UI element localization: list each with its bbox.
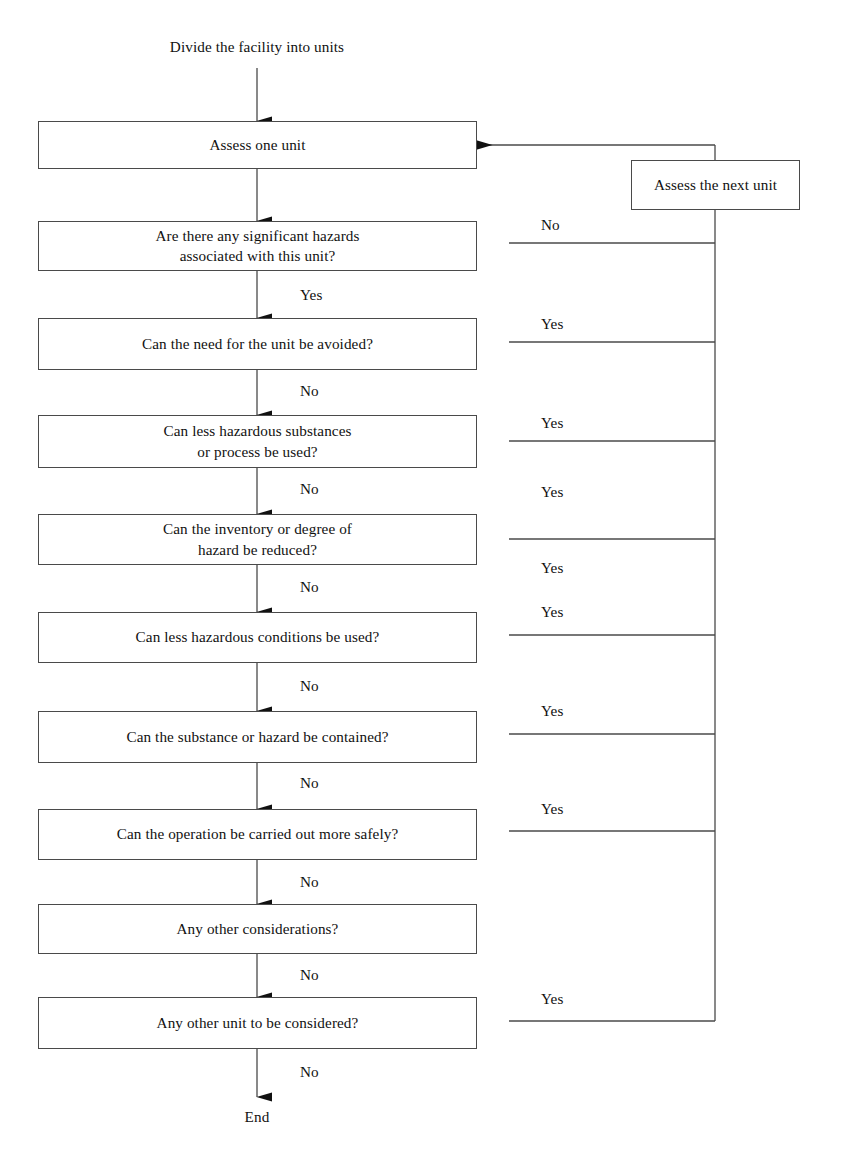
branch-label-other-unit: Yes <box>541 990 563 1008</box>
edge-label-yes-after-hazards: Yes <box>300 286 322 304</box>
branch-label-need-avoided: Yes <box>541 315 563 333</box>
edge-label-no-after-need-avoided: No <box>300 382 319 400</box>
branch-label-safely: Yes <box>541 800 563 818</box>
branch-label-substances: Yes <box>541 414 563 432</box>
node-less-hazardous-substances[interactable]: Can less hazardous substances or process… <box>38 415 477 468</box>
node-need-avoided[interactable]: Can the need for the unit be avoided? <box>38 318 477 370</box>
branch-label-conditions-upper: Yes <box>541 559 563 577</box>
edge-label-no-after-other-unit: No <box>300 1063 319 1081</box>
node-substance-contained[interactable]: Can the substance or hazard be contained… <box>38 711 477 763</box>
edge-label-no-after-considerations: No <box>300 966 319 984</box>
edge-label-no-after-inventory: No <box>300 578 319 596</box>
node-operation-safely[interactable]: Can the operation be carried out more sa… <box>38 809 477 860</box>
node-inventory-degree[interactable]: Can the inventory or degree of hazard be… <box>38 514 477 565</box>
branch-label-conditions-lower: Yes <box>541 603 563 621</box>
node-less-hazardous-conditions[interactable]: Can less hazardous conditions be used? <box>38 612 477 663</box>
node-assess-next-unit[interactable]: Assess the next unit <box>631 160 800 210</box>
branch-label-inventory: Yes <box>541 483 563 501</box>
edge-label-no-after-safely: No <box>300 873 319 891</box>
flowchart-canvas: Divide the facility into units Assess on… <box>0 0 842 1161</box>
start-label: Divide the facility into units <box>107 38 407 56</box>
edge-label-no-after-contained: No <box>300 774 319 792</box>
node-other-unit[interactable]: Any other unit to be considered? <box>38 997 477 1049</box>
branch-label-contained: Yes <box>541 702 563 720</box>
end-label: End <box>157 1108 357 1126</box>
branch-label-hazards: No <box>541 216 560 234</box>
node-other-considerations[interactable]: Any other considerations? <box>38 904 477 954</box>
node-significant-hazards[interactable]: Are there any significant hazards associ… <box>38 221 477 271</box>
node-assess-one-unit[interactable]: Assess one unit <box>38 121 477 169</box>
edge-label-no-after-conditions: No <box>300 677 319 695</box>
edge-label-no-after-substances: No <box>300 480 319 498</box>
